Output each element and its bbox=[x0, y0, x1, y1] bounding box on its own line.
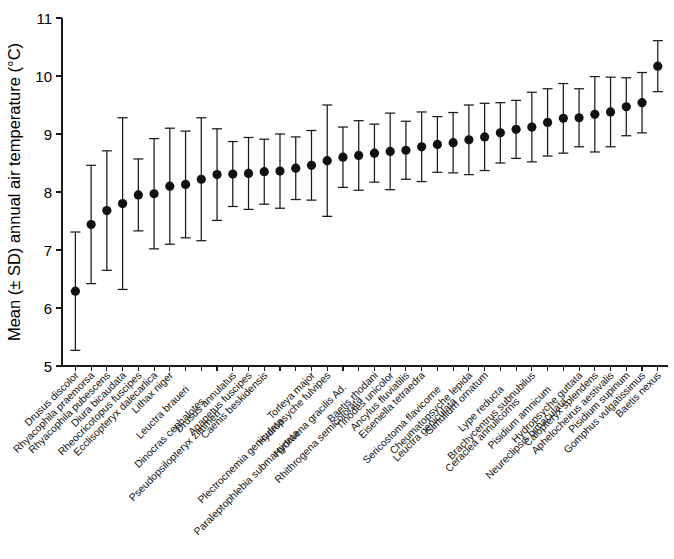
data-point-marker bbox=[433, 140, 442, 149]
data-point-group bbox=[511, 100, 521, 158]
data-point-group bbox=[385, 113, 395, 190]
data-point-group bbox=[369, 124, 379, 182]
data-point-marker bbox=[496, 128, 505, 137]
data-point-marker bbox=[338, 153, 347, 162]
data-point-marker bbox=[386, 147, 395, 156]
data-point-group bbox=[338, 127, 348, 187]
data-point-group bbox=[574, 89, 584, 147]
data-point-group bbox=[228, 142, 238, 207]
data-point-group bbox=[558, 84, 568, 154]
data-point-marker bbox=[449, 138, 458, 147]
y-tick-label-9: 9 bbox=[44, 126, 52, 143]
data-point-marker bbox=[134, 190, 143, 199]
data-point-group bbox=[637, 73, 647, 133]
data-point-group bbox=[181, 131, 191, 238]
data-point-group bbox=[291, 137, 301, 200]
data-point-group bbox=[590, 77, 600, 152]
y-tick-label-10: 10 bbox=[35, 68, 52, 85]
data-point-group bbox=[102, 151, 112, 270]
data-point-marker bbox=[606, 107, 615, 116]
data-point-marker bbox=[590, 110, 599, 119]
y-tick-label-5: 5 bbox=[44, 358, 52, 375]
data-point-group bbox=[354, 121, 364, 191]
data-point-group bbox=[464, 105, 474, 175]
data-point-group bbox=[417, 112, 427, 182]
data-point-group bbox=[653, 41, 663, 92]
data-point-group bbox=[432, 117, 442, 173]
data-point-marker bbox=[197, 175, 206, 184]
data-point-marker bbox=[354, 151, 363, 160]
chart-canvas: 567891011Mean (± SD) annual air temperat… bbox=[0, 0, 674, 559]
data-point-group bbox=[244, 137, 254, 209]
data-point-group bbox=[196, 118, 206, 241]
data-point-group bbox=[212, 129, 222, 221]
data-point-group bbox=[306, 131, 316, 201]
data-point-marker bbox=[527, 122, 536, 131]
data-point-group bbox=[70, 232, 80, 350]
data-point-group bbox=[621, 78, 631, 136]
data-point-group bbox=[401, 121, 411, 179]
data-point-group bbox=[275, 134, 285, 208]
y-tick-label-7: 7 bbox=[44, 242, 52, 259]
chart-figure: 567891011Mean (± SD) annual air temperat… bbox=[0, 0, 674, 559]
data-point-group bbox=[322, 105, 332, 216]
data-point-group bbox=[606, 77, 616, 147]
data-point-group bbox=[149, 139, 159, 249]
data-point-marker bbox=[212, 170, 221, 179]
data-point-marker bbox=[275, 167, 284, 176]
data-point-marker bbox=[323, 156, 332, 165]
data-point-marker bbox=[291, 164, 300, 173]
y-axis-title: Mean (± SD) annual air temperature (°C) bbox=[5, 43, 23, 341]
data-point-marker bbox=[574, 113, 583, 122]
data-point-group bbox=[480, 103, 490, 170]
y-tick-label-8: 8 bbox=[44, 184, 52, 201]
data-point-marker bbox=[370, 149, 379, 158]
data-point-marker bbox=[307, 161, 316, 170]
data-point-group bbox=[543, 89, 553, 156]
data-point-marker bbox=[244, 169, 253, 178]
data-point-marker bbox=[622, 102, 631, 111]
data-point-group bbox=[448, 113, 458, 173]
data-point-marker bbox=[417, 142, 426, 151]
data-point-group bbox=[165, 128, 175, 244]
y-tick-label-11: 11 bbox=[36, 10, 52, 27]
data-point-marker bbox=[165, 182, 174, 191]
data-point-marker bbox=[149, 189, 158, 198]
data-point-group bbox=[133, 159, 143, 231]
data-point-marker bbox=[228, 169, 237, 178]
data-point-marker bbox=[464, 135, 473, 144]
data-point-marker bbox=[512, 125, 521, 134]
data-point-marker bbox=[653, 62, 662, 71]
data-point-marker bbox=[260, 167, 269, 176]
data-point-marker bbox=[559, 114, 568, 123]
data-point-group bbox=[86, 165, 96, 283]
data-point-group bbox=[118, 118, 128, 290]
data-point-marker bbox=[181, 180, 190, 189]
data-point-marker bbox=[71, 287, 80, 296]
data-point-marker bbox=[102, 206, 111, 215]
y-tick-label-6: 6 bbox=[44, 300, 52, 317]
data-point-marker bbox=[118, 199, 127, 208]
data-point-marker bbox=[87, 220, 96, 229]
data-point-group bbox=[495, 103, 505, 163]
data-point-marker bbox=[480, 132, 489, 141]
data-point-marker bbox=[543, 118, 552, 127]
data-point-marker bbox=[401, 146, 410, 155]
data-point-group bbox=[527, 92, 537, 162]
data-point-group bbox=[259, 139, 269, 204]
data-point-marker bbox=[637, 98, 646, 107]
